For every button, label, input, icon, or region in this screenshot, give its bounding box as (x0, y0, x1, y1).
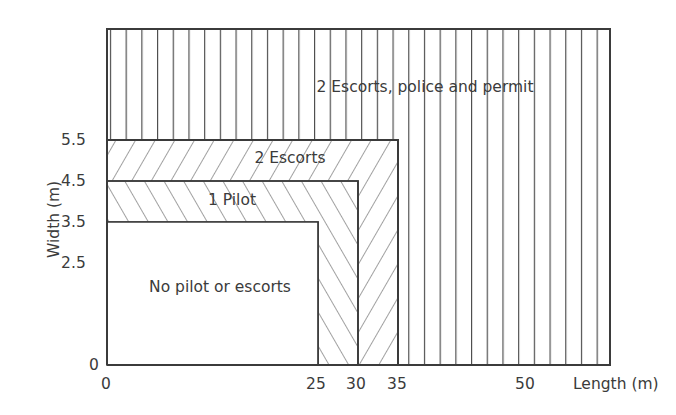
y-tick-4-5: 4.5 (61, 172, 86, 190)
x-tick-30: 30 (346, 375, 366, 393)
y-tick-5-5: 5.5 (61, 131, 86, 149)
y-axis-title: Width (m) (45, 181, 63, 258)
stepped-region-chart (0, 0, 676, 415)
label-two-escorts: 2 Escorts (240, 149, 340, 167)
label-no-pilot: No pilot or escorts (134, 278, 306, 296)
y-tick-3-5: 3.5 (61, 213, 86, 231)
x-axis-title: Length (m) (573, 375, 659, 393)
x-tick-0: 0 (101, 375, 111, 393)
x-tick-50: 50 (515, 375, 535, 393)
x-tick-25: 25 (306, 375, 326, 393)
x-tick-35: 35 (387, 375, 407, 393)
label-escorts-police-permit: 2 Escorts, police and permit (311, 78, 539, 96)
y-tick-0: 0 (89, 356, 99, 374)
label-one-pilot: 1 Pilot (182, 191, 282, 209)
y-tick-2-5: 2.5 (61, 254, 86, 272)
